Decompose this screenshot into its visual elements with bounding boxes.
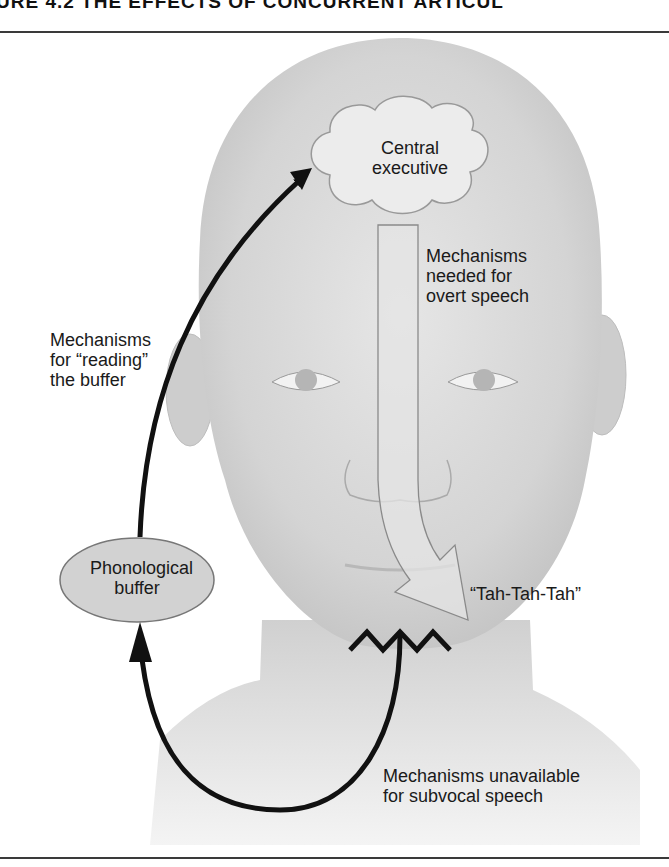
- speech-output-label: “Tah-Tah-Tah”: [470, 584, 581, 604]
- bottom-rule: [0, 857, 669, 859]
- diagram-canvas: [0, 0, 669, 867]
- reading-buffer-label: Mechanisms for “reading” the buffer: [50, 330, 151, 390]
- central-executive-label: Central executive: [360, 138, 460, 178]
- subvocal-arrow-head-icon: [129, 622, 152, 662]
- overt-speech-label: Mechanisms needed for overt speech: [426, 246, 529, 306]
- neck-shoulders: [150, 620, 640, 845]
- phonological-buffer-label: Phonological buffer: [90, 558, 184, 598]
- subvocal-speech-label: Mechanisms unavailable for subvocal spee…: [383, 766, 580, 806]
